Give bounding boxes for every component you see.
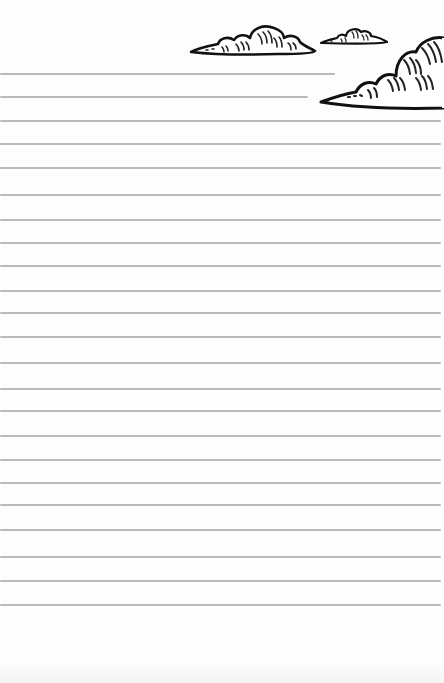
ruled-line xyxy=(0,167,441,169)
ruled-line xyxy=(0,73,335,75)
ruled-line xyxy=(0,312,441,314)
ruled-line xyxy=(0,410,441,412)
ruled-line xyxy=(0,219,441,221)
ruled-line xyxy=(0,120,441,122)
ruled-line xyxy=(0,336,441,338)
ruled-line xyxy=(0,604,441,606)
ruled-line xyxy=(0,143,441,145)
ruled-line xyxy=(0,529,441,531)
ruled-line xyxy=(0,290,441,292)
ruled-line xyxy=(0,388,441,390)
paper-edge-shadow xyxy=(0,663,444,683)
ruled-line xyxy=(0,96,308,98)
ruled-line xyxy=(0,362,441,364)
ruled-line xyxy=(0,435,441,437)
ruled-line xyxy=(0,580,441,582)
ruled-line xyxy=(0,242,441,244)
lined-paper xyxy=(0,0,444,683)
cloud-medium-icon xyxy=(188,22,318,58)
ruled-line xyxy=(0,265,441,267)
ruled-line xyxy=(0,459,441,461)
ruled-line xyxy=(0,504,441,506)
ruled-line xyxy=(0,556,441,558)
cloud-large-icon xyxy=(318,34,444,112)
ruled-line xyxy=(0,482,441,484)
ruled-line xyxy=(0,194,441,196)
